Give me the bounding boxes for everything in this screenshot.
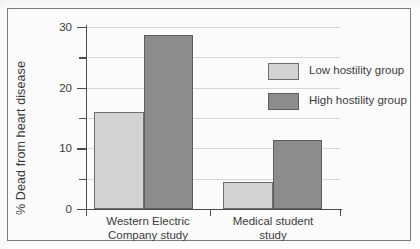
bar-medical-student-low <box>223 182 273 209</box>
legend-label-high-hostility: High hostility group <box>309 94 407 106</box>
y-tick-label: 0 <box>42 203 72 215</box>
legend-swatch-high-hostility <box>268 93 299 110</box>
y-tick-mark <box>79 179 86 180</box>
legend-swatch-low-hostility <box>268 63 299 80</box>
y-axis-label: % Dead from heart disease <box>14 15 38 215</box>
category-label-medical-student: Medical student study <box>208 214 338 242</box>
y-tick-label: 30 <box>42 21 72 33</box>
bar-western-electric-low <box>94 112 144 209</box>
y-tick-label: 10 <box>42 142 72 154</box>
legend-label-low-hostility: Low hostility group <box>309 64 404 76</box>
category-label-western-electric: Western Electric Company study <box>83 214 213 242</box>
x-tick-mark <box>340 209 341 216</box>
y-tick-mark <box>77 88 86 89</box>
gridline <box>86 88 340 89</box>
bar-medical-student-high <box>273 140 323 209</box>
gridline <box>86 27 340 28</box>
y-tick-mark <box>77 148 86 149</box>
y-axis-line <box>86 25 87 211</box>
y-tick-mark <box>79 57 86 58</box>
x-axis-line <box>86 209 342 210</box>
y-tick-mark <box>79 118 86 119</box>
plot-area <box>86 27 340 209</box>
y-tick-mark <box>77 27 86 28</box>
bar-western-electric-high <box>144 35 194 209</box>
chart-figure: % Dead from heart disease 3020100 Wester… <box>0 0 420 249</box>
y-tick-label: 20 <box>42 82 72 94</box>
y-tick-mark <box>77 209 86 210</box>
gridline <box>86 57 340 58</box>
